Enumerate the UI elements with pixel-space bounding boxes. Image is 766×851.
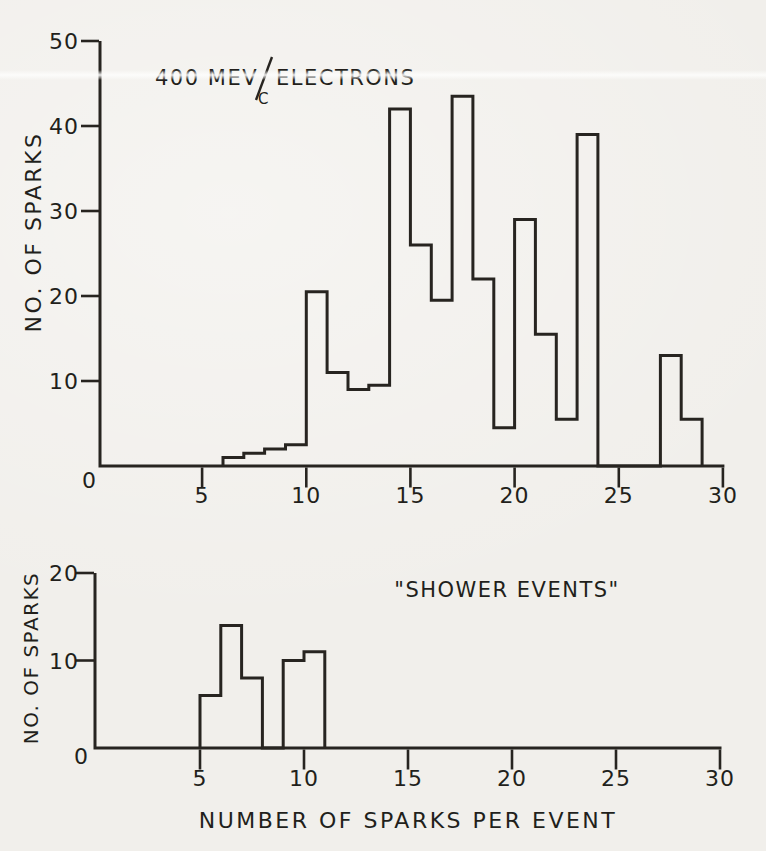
shower-events-histogram-outline [200, 626, 325, 749]
electrons-y-tick-label: 50 [49, 29, 79, 54]
shower-events-x-tick-label: 5 [193, 766, 208, 791]
electrons-y-axis-label: NO. OF SPARKS [21, 132, 46, 333]
shower-events-y-tick-label: 10 [49, 649, 79, 674]
electrons-axes [99, 41, 725, 466]
electrons-title-denominator: C [258, 90, 268, 108]
electrons-x-tick-label: 15 [395, 483, 425, 508]
electrons-x-tick-label: 20 [500, 483, 530, 508]
shower-events-y-axis-label: NO. OF SPARKS [19, 572, 43, 745]
electrons-y-tick-label: 40 [49, 114, 79, 139]
shower-events-x-tick-label: 20 [497, 766, 527, 791]
electrons-title-suffix: ELECTRONS [276, 66, 415, 90]
shower-events-y-tick-label: 0 [74, 744, 89, 769]
shower-events-histogram-chart: "SHOWER EVENTS" NO. OF SPARKS NUMBER OF … [19, 561, 735, 833]
electrons-y-tick-label: 10 [49, 369, 79, 394]
electrons-histogram-outline [223, 96, 702, 466]
electrons-y-tick-label: 0 [82, 468, 97, 493]
shower-events-x-tick-label: 30 [705, 766, 735, 791]
figure-canvas: 400 MEV C ELECTRONS NO. OF SPARKS 010203… [0, 0, 766, 851]
electrons-x-tick-label: 25 [604, 483, 634, 508]
x-axis-label: NUMBER OF SPARKS PER EVENT [199, 808, 618, 833]
shower-events-y-tick-label: 20 [49, 561, 79, 586]
shower-events-x-tick-label: 15 [393, 766, 423, 791]
electrons-x-tick-label: 5 [195, 483, 210, 508]
shower-events-x-tick-label: 10 [289, 766, 319, 791]
shower-events-title: "SHOWER EVENTS" [394, 578, 620, 602]
electrons-x-tick-label: 30 [708, 483, 738, 508]
electrons-x-tick-label: 10 [291, 483, 321, 508]
scanned-figure-page: 400 MEV C ELECTRONS NO. OF SPARKS 010203… [0, 0, 766, 851]
electrons-title-prefix: 400 MEV [155, 66, 258, 90]
electrons-y-tick-label: 20 [49, 284, 79, 309]
shower-events-x-tick-label: 25 [601, 766, 631, 791]
electrons-histogram-chart: 400 MEV C ELECTRONS NO. OF SPARKS 010203… [21, 29, 738, 508]
electrons-y-tick-label: 30 [49, 199, 79, 224]
